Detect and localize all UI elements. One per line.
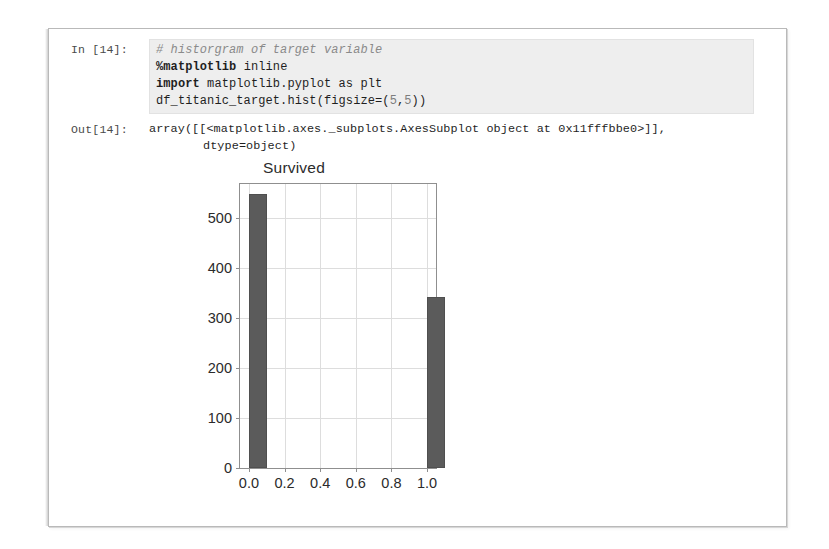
notebook-input-cell[interactable]: In [14]: # historgram of target variable… xyxy=(71,39,754,114)
code-call-prefix: df_titanic_target.hist(figsize=( xyxy=(156,94,390,108)
x-tick-mark xyxy=(249,468,250,472)
code-line-4: df_titanic_target.hist(figsize=(5,5)) xyxy=(156,93,747,110)
output-line-2: dtype=object) xyxy=(149,138,666,155)
y-tick-mark xyxy=(236,318,240,319)
y-gridline xyxy=(240,318,436,319)
y-gridline xyxy=(240,218,436,219)
y-tick-label: 200 xyxy=(208,360,232,376)
x-tick-mark xyxy=(391,468,392,472)
code-line-1: # historgram of target variable xyxy=(156,42,747,59)
x-tick-mark xyxy=(427,468,428,472)
y-tick-label: 100 xyxy=(208,410,232,426)
code-number-2: 5 xyxy=(404,94,411,108)
x-tick-mark xyxy=(356,468,357,472)
y-tick-mark xyxy=(236,268,240,269)
x-gridline xyxy=(356,184,357,468)
y-tick-mark xyxy=(236,418,240,419)
y-tick-label: 500 xyxy=(208,210,232,226)
x-tick-label: 0.0 xyxy=(239,475,259,491)
code-magic-arg: inline xyxy=(236,60,287,74)
x-tick-label: 0.4 xyxy=(310,475,330,491)
x-gridline xyxy=(285,184,286,468)
output-prompt-label: Out[14]: xyxy=(71,121,149,138)
histogram-bar xyxy=(427,297,445,468)
code-comment-token: # historgram of target variable xyxy=(156,43,382,57)
x-tick-mark xyxy=(320,468,321,472)
output-repr-text: array([[<matplotlib.axes._subplots.AxesS… xyxy=(149,121,666,155)
y-gridline xyxy=(240,268,436,269)
x-tick-label: 0.6 xyxy=(346,475,366,491)
y-tick-label: 300 xyxy=(208,310,232,326)
y-tick-mark xyxy=(236,468,240,469)
x-tick-mark xyxy=(285,468,286,472)
code-editor[interactable]: # historgram of target variable %matplot… xyxy=(149,39,754,114)
y-tick-label: 0 xyxy=(224,460,232,476)
plot-axes-area: 01002003004005000.00.20.40.60.81.0 xyxy=(239,183,437,469)
y-gridline xyxy=(240,418,436,419)
x-tick-label: 1.0 xyxy=(417,475,437,491)
chart-title: Survived xyxy=(149,159,439,177)
y-tick-mark xyxy=(236,368,240,369)
code-import-target: matplotlib.pyplot as plt xyxy=(200,77,383,91)
y-gridline xyxy=(240,368,436,369)
input-prompt-label: In [14]: xyxy=(71,39,149,58)
code-line-2: %matplotlib inline xyxy=(156,59,747,76)
notebook-page-frame: In [14]: # historgram of target variable… xyxy=(48,28,787,527)
x-gridline xyxy=(391,184,392,468)
x-gridline xyxy=(320,184,321,468)
x-tick-label: 0.8 xyxy=(381,475,401,491)
histogram-figure: Survived 01002003004005000.00.20.40.60.8… xyxy=(149,159,489,514)
notebook-output-cell: Out[14]: array([[<matplotlib.axes._subpl… xyxy=(71,121,666,155)
code-line-3: import matplotlib.pyplot as plt xyxy=(156,76,747,93)
output-line-1: array([[<matplotlib.axes._subplots.AxesS… xyxy=(149,121,666,138)
code-number-1: 5 xyxy=(390,94,397,108)
histogram-bar xyxy=(249,194,267,469)
code-call-suffix: )) xyxy=(412,94,427,108)
code-import-keyword: import xyxy=(156,77,200,91)
y-tick-label: 400 xyxy=(208,260,232,276)
x-tick-label: 0.2 xyxy=(274,475,294,491)
code-magic-token: %matplotlib xyxy=(156,60,236,74)
y-tick-mark xyxy=(236,218,240,219)
